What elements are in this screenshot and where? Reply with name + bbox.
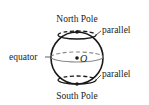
center-point [75,56,79,60]
upper-parallel-pointer [96,31,101,35]
equator-label: equator [9,52,38,62]
south-pole-point [75,82,79,86]
sphere-diagram: O North Pole South Pole equator parallel… [0,0,149,105]
north-pole-point [75,30,79,34]
lower-parallel-label: parallel [102,69,131,79]
upper-parallel-label: parallel [102,25,131,35]
south-pole-label: South Pole [56,91,97,101]
center-label: O [80,53,87,64]
north-pole-label: North Pole [56,14,97,24]
